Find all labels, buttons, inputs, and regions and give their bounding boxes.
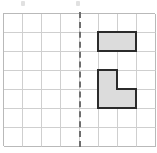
grid-cell-r3-c1[interactable] (23, 71, 42, 90)
grid-cell-r0-c6[interactable] (118, 14, 137, 33)
line-of-symmetry (79, 12, 81, 147)
grid-cell-r3-c0[interactable] (4, 71, 23, 90)
grid-cell-r6-c3[interactable] (61, 128, 80, 147)
grid-cell-r2-c0[interactable] (4, 52, 23, 71)
grid-cell-r3-c5[interactable] (99, 71, 118, 90)
grid-cell-r2-c5[interactable] (99, 52, 118, 71)
crop-remnant-right-artifact (76, 1, 80, 6)
grid-cell-r4-c6[interactable] (118, 90, 137, 109)
grid-cell-r3-c7[interactable] (137, 71, 156, 90)
grid-cell-r6-c1[interactable] (23, 128, 42, 147)
grid-cell-r2-c3[interactable] (61, 52, 80, 71)
grid-cell-r5-c6[interactable] (118, 109, 137, 128)
grid-cell-r6-c2[interactable] (42, 128, 61, 147)
grid-cell-r3-c6[interactable] (118, 71, 137, 90)
grid-cell-r1-c3[interactable] (61, 33, 80, 52)
grid-cell-r2-c7[interactable] (137, 52, 156, 71)
grid-cell-r3-c4[interactable] (80, 71, 99, 90)
grid-cell-r1-c6[interactable] (118, 33, 137, 52)
grid-cell-r6-c6[interactable] (118, 128, 137, 147)
grid-cell-r5-c7[interactable] (137, 109, 156, 128)
grid-cell-r5-c2[interactable] (42, 109, 61, 128)
grid-cell-r0-c5[interactable] (99, 14, 118, 33)
grid-cell-r1-c2[interactable] (42, 33, 61, 52)
grid-cell-r0-c0[interactable] (4, 14, 23, 33)
grid-cell-r1-c7[interactable] (137, 33, 156, 52)
grid-cell-r0-c3[interactable] (61, 14, 80, 33)
grid-cell-r5-c3[interactable] (61, 109, 80, 128)
grid-cell-r2-c4[interactable] (80, 52, 99, 71)
grid-cell-r4-c2[interactable] (42, 90, 61, 109)
crop-remnant-left-artifact (21, 1, 25, 6)
grid-container (3, 13, 155, 146)
grid-cell-r6-c5[interactable] (99, 128, 118, 147)
grid-cell-r1-c1[interactable] (23, 33, 42, 52)
grid-cell-r6-c4[interactable] (80, 128, 99, 147)
grid-cell-r4-c7[interactable] (137, 90, 156, 109)
grid-cell-r0-c4[interactable] (80, 14, 99, 33)
grid-cell-r1-c5[interactable] (99, 33, 118, 52)
grid-cell-r4-c3[interactable] (61, 90, 80, 109)
grid-cell-r1-c0[interactable] (4, 33, 23, 52)
grid-cell-r2-c1[interactable] (23, 52, 42, 71)
grid-cell-r0-c1[interactable] (23, 14, 42, 33)
grid-cell-r4-c0[interactable] (4, 90, 23, 109)
grid-cell-r1-c4[interactable] (80, 33, 99, 52)
symmetry-grid-figure (0, 0, 157, 153)
grid-cell-r3-c2[interactable] (42, 71, 61, 90)
grid-cell-r6-c0[interactable] (4, 128, 23, 147)
grid-cell-r2-c2[interactable] (42, 52, 61, 71)
grid-cell-r5-c0[interactable] (4, 109, 23, 128)
grid-cell-r4-c1[interactable] (23, 90, 42, 109)
grid-cell-r5-c4[interactable] (80, 109, 99, 128)
grid-cell-r2-c6[interactable] (118, 52, 137, 71)
grid-cell-r5-c1[interactable] (23, 109, 42, 128)
grid-cell-r5-c5[interactable] (99, 109, 118, 128)
grid-cell-r6-c7[interactable] (137, 128, 156, 147)
grid-cell-r4-c5[interactable] (99, 90, 118, 109)
grid-cell-r3-c3[interactable] (61, 71, 80, 90)
grid-cell-r0-c2[interactable] (42, 14, 61, 33)
grid-cell-r4-c4[interactable] (80, 90, 99, 109)
grid-cell-r0-c7[interactable] (137, 14, 156, 33)
